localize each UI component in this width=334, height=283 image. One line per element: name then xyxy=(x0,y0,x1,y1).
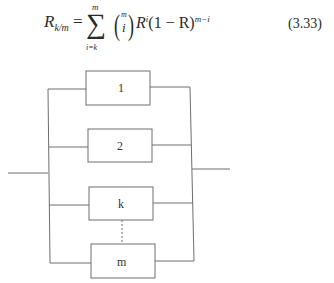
left-rail xyxy=(48,89,50,263)
block-1-label: 1 xyxy=(118,81,124,95)
block-2-label: 2 xyxy=(117,139,123,153)
block-m-label: m xyxy=(117,255,127,269)
right-rail xyxy=(190,87,194,261)
block-k-label: k xyxy=(118,197,124,211)
block-diagram: 1 2 k m xyxy=(0,0,334,283)
